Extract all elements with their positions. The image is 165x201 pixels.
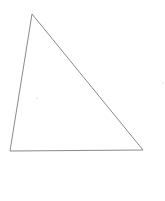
exterior-dot [162, 82, 164, 84]
triangle-shape [10, 14, 143, 151]
triangle-diagram [0, 0, 165, 201]
interior-dot [36, 97, 38, 99]
diagram-canvas [0, 0, 165, 201]
